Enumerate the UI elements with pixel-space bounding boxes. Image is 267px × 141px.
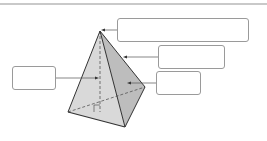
arrowhead-icon	[123, 56, 127, 59]
label-box-face[interactable]	[156, 71, 201, 95]
arrowhead-icon	[101, 29, 105, 32]
label-box-edge[interactable]	[158, 45, 225, 69]
leader-apex	[101, 29, 117, 32]
label-box-apex[interactable]	[117, 18, 249, 42]
label-box-height[interactable]	[12, 66, 56, 90]
leader-edge	[123, 56, 158, 59]
